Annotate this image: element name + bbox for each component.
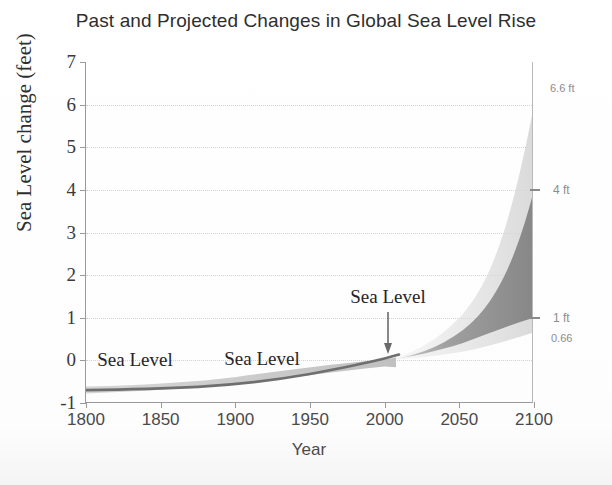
y-tick-label-2: 2 — [67, 264, 77, 286]
x-tick-2000 — [385, 402, 386, 408]
y-tick-label-0: 0 — [67, 349, 77, 371]
y-tick-label-7: 7 — [67, 51, 77, 73]
right-label-lowest: 0.66 — [551, 332, 572, 344]
x-tick-1900 — [235, 402, 236, 408]
plot-area: 7 6 5 4 3 2 1 0 -1 1800 1850 1900 1950 2… — [85, 62, 533, 403]
right-label-intermediate-high: 4 ft — [553, 183, 570, 197]
down-arrow-icon — [382, 312, 394, 356]
x-tick-1950 — [310, 402, 311, 408]
sea-level-chart-figure: Past and Projected Changes in Global Sea… — [0, 0, 612, 485]
x-tick-label-2100: 2100 — [515, 410, 553, 430]
x-tick-label-1950: 1950 — [291, 410, 329, 430]
x-tick-label-1800: 1800 — [67, 410, 105, 430]
right-label-highest: 6.6 ft — [550, 82, 574, 94]
x-tick-1800 — [86, 402, 87, 408]
x-tick-1850 — [161, 402, 162, 408]
y-axis-title: Sea Level change (feet) — [12, 33, 37, 232]
annotation-sea-level-3: Sea Level — [350, 286, 425, 308]
x-tick-label-2000: 2000 — [366, 410, 404, 430]
y-tick-label-1: 1 — [67, 307, 77, 329]
x-tick-label-2050: 2050 — [440, 410, 478, 430]
right-tick-1ft — [530, 317, 540, 319]
right-tick-4ft — [530, 189, 540, 191]
y-tick-label-3: 3 — [67, 222, 77, 244]
y-tick-label-6: 6 — [67, 94, 77, 116]
x-tick-2050 — [459, 402, 460, 408]
x-tick-2100 — [534, 402, 535, 408]
chart-title: Past and Projected Changes in Global Sea… — [0, 10, 612, 32]
x-axis-title: Year — [85, 440, 533, 460]
down-arrow-glyph — [382, 312, 394, 356]
x-tick-label-1850: 1850 — [142, 410, 180, 430]
x-tick-label-1900: 1900 — [216, 410, 254, 430]
annotation-sea-level-1: Sea Level — [97, 349, 172, 371]
annotation-sea-level-2: Sea Level — [224, 348, 299, 370]
y-tick-label-4: 4 — [67, 179, 77, 201]
y-tick-label-5: 5 — [67, 136, 77, 158]
right-label-intermediate-low: 1 ft — [553, 311, 570, 325]
